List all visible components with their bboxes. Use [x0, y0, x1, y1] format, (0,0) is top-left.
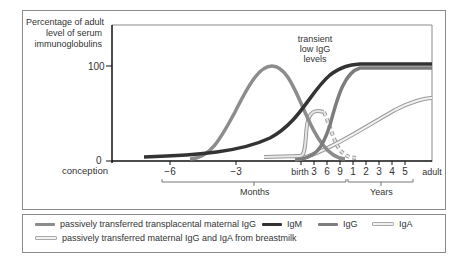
x-label-birth: birth [291, 167, 309, 177]
x-label-1-year: 1 [350, 166, 356, 177]
months-bracket [162, 179, 346, 182]
legend-label: IgM [287, 219, 302, 229]
legend-item-maternal-igg: passively transferred transplacental mat… [35, 219, 256, 229]
x-label-9-months: 9 [337, 166, 343, 177]
legend-label: IgG [343, 219, 358, 229]
legend-label: IgA [399, 219, 413, 229]
x-label-3-years: 3 [376, 166, 382, 177]
x-label-2-years: 2 [363, 166, 369, 177]
legend-item-igg: IgG [318, 219, 358, 229]
x-label-6-months: 6 [324, 166, 330, 177]
x-label-minus3: −3 [230, 166, 241, 177]
legend-swatch [318, 223, 338, 226]
igg-curve [295, 68, 432, 160]
plot-border [112, 25, 432, 162]
legend-label: passively transferred transplacental mat… [60, 219, 256, 229]
legend-swatch [35, 236, 57, 240]
x-label-minus6: −6 [164, 166, 175, 177]
legend-swatch [372, 222, 394, 226]
years-label: Years [370, 188, 393, 198]
x-label-3-months: 3 [311, 166, 317, 177]
years-bracket [348, 179, 413, 182]
legend-swatch [262, 223, 282, 226]
legend-item-igm: IgM [262, 219, 302, 229]
legend-label: passively transferred maternal IgG and I… [62, 233, 297, 243]
x-label-conception: conception [62, 166, 108, 176]
legend-item-iga: IgA [372, 219, 413, 229]
legend-item-breastmilk: passively transferred maternal IgG and I… [35, 233, 297, 243]
x-label-4-years: 4 [389, 166, 395, 177]
months-label: Months [240, 188, 270, 198]
x-label-adult: adult [422, 167, 442, 177]
legend-swatch [35, 223, 55, 226]
x-label-5-years: 5 [402, 166, 408, 177]
